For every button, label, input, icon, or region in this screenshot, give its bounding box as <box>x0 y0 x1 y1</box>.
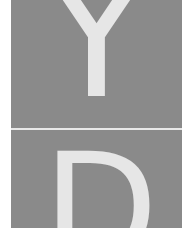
letter-tile-y: Y <box>11 0 182 127</box>
divider-line <box>11 128 182 130</box>
letter-glyph: D <box>19 133 182 228</box>
letter-tile-d: D <box>11 131 182 228</box>
letter-glyph: Y <box>11 0 182 122</box>
